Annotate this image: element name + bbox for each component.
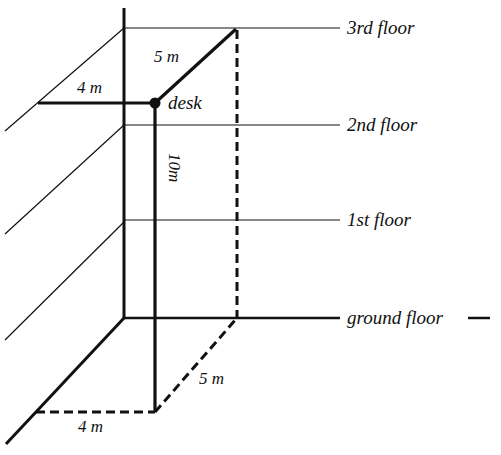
label-dim-vertical-10m: 10m [166, 153, 183, 182]
label-ground-floor: ground floor [347, 308, 443, 327]
label-1st-floor: 1st floor [347, 210, 411, 229]
label-3rd-floor: 3rd floor [347, 18, 414, 37]
ground-dashed-5m-line [155, 318, 237, 412]
label-dim-top-left-4m: 4 m [77, 79, 102, 96]
side-line-ground [6, 318, 124, 444]
building-diagram: 3rd floor 2nd floor 1st floor ground flo… [0, 0, 501, 455]
side-line-1st [5, 222, 124, 340]
label-desk: desk [168, 93, 202, 112]
label-dim-top-diag-5m: 5 m [154, 48, 179, 65]
label-dim-bottom-diag-5m: 5 m [199, 370, 224, 387]
desk-point-marker [150, 98, 161, 109]
side-line-3rd [5, 28, 124, 131]
side-line-2nd [5, 125, 124, 234]
diagram-canvas [0, 0, 501, 455]
label-dim-bottom-left-4m: 4 m [78, 418, 103, 435]
label-2nd-floor: 2nd floor [347, 115, 417, 134]
